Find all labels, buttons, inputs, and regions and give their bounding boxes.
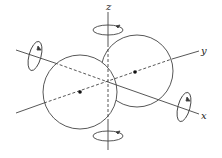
- right-sphere-center-dot: [133, 70, 137, 74]
- x-axis-label: x: [201, 110, 207, 121]
- rotation-arrow-right-icon: [174, 91, 193, 123]
- left-sphere-center-dot: [78, 90, 82, 94]
- y-axis-label: y: [200, 45, 207, 56]
- z-axis-label: z: [105, 1, 112, 12]
- diatomic-molecule-diagram: z y x: [0, 0, 222, 158]
